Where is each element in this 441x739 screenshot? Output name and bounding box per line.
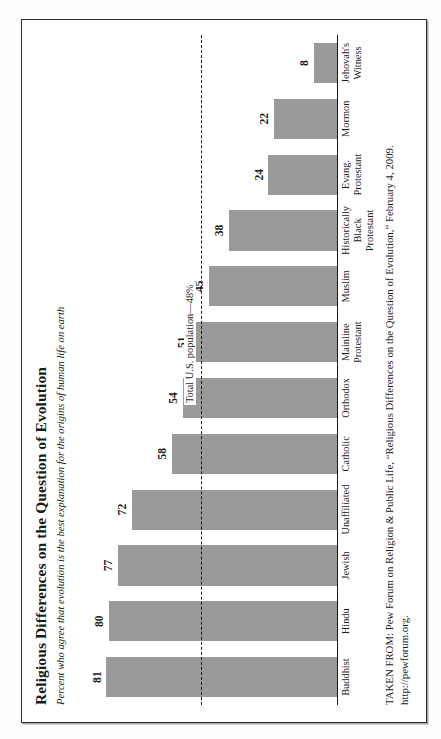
bar-value-label: 77 [103,538,118,594]
bar-slot: 80 [81,593,337,649]
category-label: Muslim [340,258,376,314]
bar-slot: 54 [81,370,337,426]
bar-slot: 45 [81,258,337,314]
bar-slot: 81 [81,649,337,705]
bar-value-label: 38 [214,203,229,259]
bar [109,601,337,641]
category-axis-labels: BuddhistHinduJewishUnaffiliatedCatholicO… [340,35,376,705]
bar-value-label: 8 [299,35,314,91]
bar-slot: 38 [81,203,337,259]
figure-frame: Religious Differences on the Question of… [21,19,427,723]
bar-slot: 8 [81,35,337,91]
bar-slot: 51 [81,314,337,370]
bar-value-label: 22 [259,91,274,147]
category-label: Orthodox [340,370,376,426]
category-label: Historically Black Protestant [340,203,376,259]
bar [314,43,337,83]
bar-value-label: 81 [92,649,107,705]
category-label: Buddhist [340,649,376,705]
bar-value-label: 58 [157,426,172,482]
category-label: Catholic [340,426,376,482]
chart-subtitle: Percent who agree that evolution is the … [55,307,66,705]
bar [229,210,337,250]
category-label: Mainline Protestant [340,314,376,370]
category-label: Jehovah's Witness [340,35,376,91]
bar [274,99,337,139]
bar [209,266,337,306]
source-line-2: http://pewforum.org. [397,33,412,705]
category-label: Mormon [340,91,376,147]
category-label: Evang. Protestant [340,147,376,203]
source-line-1: TAKEN FROM: Pew Forum on Religion & Publ… [382,33,397,705]
reference-line [201,35,202,705]
chart-title: Religious Differences on the Question of… [32,367,50,705]
bar [268,155,336,195]
source-note: TAKEN FROM: Pew Forum on Religion & Publ… [382,33,413,705]
plot-area: 81807772585451453824228 Total U.S. popul… [80,35,338,705]
bar [118,545,337,585]
rotated-figure-wrapper: Religious Differences on the Question of… [22,20,425,721]
bar-series: 81807772585451453824228 [81,35,337,705]
bar [106,657,336,697]
bar [183,378,337,418]
bar-slot: 22 [81,91,337,147]
bar-slot: 72 [81,482,337,538]
bar-value-label: 80 [94,593,109,649]
bar [172,434,337,474]
bar-value-label: 72 [117,482,132,538]
bar-value-label: 54 [168,370,183,426]
category-label: Jewish [340,538,376,594]
bar [192,322,337,362]
bar-slot: 77 [81,538,337,594]
category-label: Unaffiliated [340,482,376,538]
bar-value-label: 24 [254,147,269,203]
figure-canvas: Religious Differences on the Question of… [22,20,425,721]
bar-slot: 58 [81,426,337,482]
reference-line-label: Total U.S. population—48% [184,282,195,405]
page-root: Religious Differences on the Question of… [0,0,441,739]
bar-slot: 24 [81,147,337,203]
bar [132,490,337,530]
category-label: Hindu [340,593,376,649]
category-axis [337,35,338,705]
